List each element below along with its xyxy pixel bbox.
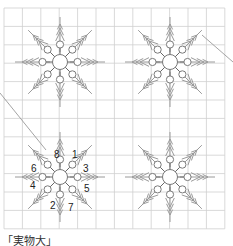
guide-diagonal-line [0, 93, 46, 150]
bead-circle [56, 41, 63, 48]
actual-size-caption: 「実物大」 [2, 232, 57, 246]
bead-circle [184, 58, 191, 65]
bead-circle [39, 58, 46, 65]
bead-circle [39, 173, 46, 180]
bead-circle [44, 186, 51, 193]
bead-circle [149, 173, 156, 180]
bead-circle [69, 161, 76, 168]
bead-circle [44, 161, 51, 168]
order-number-label: 3 [83, 163, 89, 174]
center-bead-circle [53, 55, 68, 70]
center-bead-circle [163, 55, 178, 70]
bead-circle [179, 46, 186, 53]
order-number-label: 5 [84, 183, 90, 194]
bead-circle [74, 58, 81, 65]
bead-circle [69, 46, 76, 53]
bead-circle [69, 186, 76, 193]
pattern-diagram: 18365427 「実物大」 [0, 0, 233, 246]
bead-circle [44, 71, 51, 78]
bead-circle [56, 76, 63, 83]
bead-circle [154, 161, 161, 168]
bead-circle [179, 161, 186, 168]
bead-circle [154, 186, 161, 193]
order-number-label: 8 [54, 149, 60, 160]
snowflake-bottom-left: 18365427 [15, 132, 105, 222]
order-number-label: 6 [31, 163, 37, 174]
bead-circle [154, 46, 161, 53]
bead-circle [179, 71, 186, 78]
snowflake-top-right [125, 17, 215, 107]
order-number-label: 4 [30, 180, 36, 191]
bead-circle [74, 173, 81, 180]
order-number-label: 2 [50, 200, 56, 211]
bead-circle [44, 46, 51, 53]
bead-circle [166, 156, 173, 163]
center-bead-circle [163, 170, 178, 185]
bead-circle [166, 41, 173, 48]
snowflake-top-left [15, 17, 105, 107]
bead-circle [166, 76, 173, 83]
bead-circle [179, 186, 186, 193]
order-number-label: 7 [68, 202, 74, 213]
bead-circle [154, 71, 161, 78]
snowflake-bottom-right [125, 132, 215, 222]
pattern-canvas: 18365427 [0, 0, 233, 246]
bead-circle [166, 191, 173, 198]
order-number-label: 1 [72, 149, 78, 160]
bead-circle [56, 191, 63, 198]
bead-circle [184, 173, 191, 180]
bead-circle [69, 71, 76, 78]
center-bead-circle [53, 170, 68, 185]
bead-circle [149, 58, 156, 65]
